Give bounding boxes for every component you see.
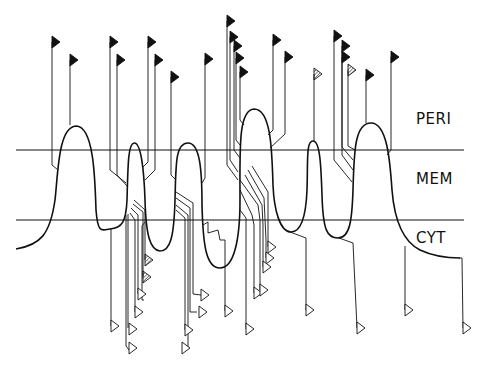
flag-solid-icon [236,52,244,64]
flag-solid-icon [342,51,350,63]
flag-hatched-icon [348,64,356,76]
bottom-flags [111,241,471,354]
flag-solid-icon [110,36,118,48]
region-label-peri: PERI [416,110,451,128]
flag-open-icon [135,306,143,318]
top-flags [52,15,399,83]
flag-solid-icon [342,40,350,52]
region-label-mem: MEM [416,170,453,188]
top-flag-stems [52,21,391,187]
flag-hatched-icon [143,271,151,283]
flag-open-icon [306,304,314,316]
flag-solid-icon [171,71,179,83]
flag-solid-icon [205,53,213,65]
topology-curve [16,109,460,268]
flag-hatched-icon [145,254,153,266]
flag-solid-icon [366,69,374,81]
flag-open-icon [111,320,119,332]
flag-solid-icon [334,30,342,42]
flag-open-icon [185,324,193,336]
flag-solid-icon [52,36,60,48]
flag-open-icon [199,306,207,318]
flag-open-icon [266,252,274,264]
flag-open-icon [129,342,137,354]
flag-solid-icon [70,54,78,66]
flag-solid-icon [391,51,399,63]
region-label-cyt: CYT [416,229,446,247]
flag-open-icon [182,342,190,354]
flag-open-icon [201,289,209,301]
flag-solid-icon [273,34,281,46]
flag-open-icon [357,322,365,334]
flag-solid-icon [227,15,235,27]
bottom-flag-stems [111,166,463,350]
membrane-topology-diagram [0,0,484,368]
flag-open-icon [225,305,233,317]
flag-open-icon [405,304,413,316]
flag-open-icon [246,323,254,335]
flag-solid-icon [234,40,242,52]
flag-solid-icon [155,54,163,66]
flag-solid-icon [117,54,125,66]
flag-solid-icon [240,66,248,78]
flag-open-icon [268,241,276,253]
flag-solid-icon [285,51,293,63]
flag-solid-icon [148,36,156,48]
flag-hatched-icon [314,68,322,80]
flag-open-icon [463,322,471,334]
flag-open-icon [260,284,268,296]
flag-open-icon [129,323,137,335]
